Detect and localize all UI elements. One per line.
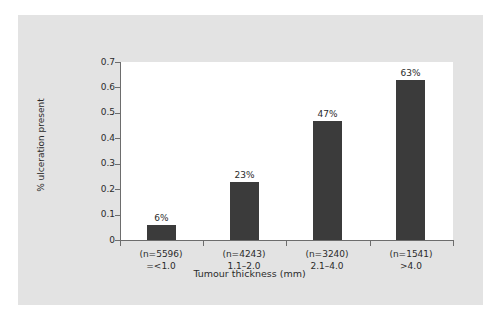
y-tick-5: 0.5 bbox=[78, 108, 115, 117]
bar-value-2: 47% bbox=[305, 109, 351, 119]
bar-2[interactable] bbox=[313, 121, 342, 241]
y-tick-label-0: 0 bbox=[89, 236, 115, 245]
bar-value-3: 63% bbox=[388, 68, 434, 78]
x-tick-mark-4 bbox=[453, 241, 454, 246]
y-tick-mark-2 bbox=[115, 189, 120, 190]
x-tick-mark-3 bbox=[370, 241, 371, 246]
y-tick-7: 0.7 bbox=[78, 58, 115, 67]
bar-3[interactable] bbox=[396, 80, 425, 240]
y-tick-mark-4 bbox=[115, 138, 120, 139]
x-axis-title: Tumour thickness (mm) bbox=[0, 268, 499, 279]
x-tick-mark-0 bbox=[120, 241, 121, 246]
bar-1[interactable] bbox=[230, 182, 259, 241]
y-tick-label-7: 0.7 bbox=[89, 58, 115, 67]
y-tick-mark-5 bbox=[115, 113, 120, 114]
y-tick-label-2: 0.2 bbox=[89, 185, 115, 194]
y-tick-label-1: 0.1 bbox=[89, 210, 115, 219]
figure: 0.7 0.6 0.5 0.4 0.3 0.2 0.1 0 bbox=[0, 0, 499, 322]
y-tick-label-5: 0.5 bbox=[89, 108, 115, 117]
y-tick-3: 0.3 bbox=[78, 159, 115, 168]
category-count-3: (n=1541) bbox=[369, 248, 453, 260]
y-tick-label-4: 0.4 bbox=[89, 134, 115, 143]
y-tick-1: 0.1 bbox=[78, 210, 115, 219]
x-axis-line bbox=[120, 240, 454, 241]
y-tick-mark-3 bbox=[115, 164, 120, 165]
y-tick-mark-6 bbox=[115, 87, 120, 88]
bar-value-1: 23% bbox=[222, 170, 268, 180]
category-count-2: (n=3240) bbox=[285, 248, 369, 260]
bar-value-0: 6% bbox=[139, 213, 185, 223]
y-tick-mark-7 bbox=[115, 62, 120, 63]
x-tick-mark-2 bbox=[286, 241, 287, 246]
y-tick-4: 0.4 bbox=[78, 134, 115, 143]
bar-0[interactable] bbox=[147, 225, 176, 240]
y-tick-6: 0.6 bbox=[78, 83, 115, 92]
y-tick-0: 0 bbox=[78, 236, 115, 245]
x-tick-mark-1 bbox=[203, 241, 204, 246]
y-axis-line bbox=[120, 62, 121, 241]
category-count-0: (n=5596) bbox=[119, 248, 203, 260]
y-tick-label-3: 0.3 bbox=[89, 159, 115, 168]
y-tick-2: 0.2 bbox=[78, 185, 115, 194]
figure-panel: 0.7 0.6 0.5 0.4 0.3 0.2 0.1 0 bbox=[18, 15, 483, 305]
category-count-1: (n=4243) bbox=[202, 248, 286, 260]
y-axis-title: % ulceration present bbox=[36, 85, 46, 205]
y-tick-mark-1 bbox=[115, 215, 120, 216]
y-tick-label-6: 0.6 bbox=[89, 83, 115, 92]
